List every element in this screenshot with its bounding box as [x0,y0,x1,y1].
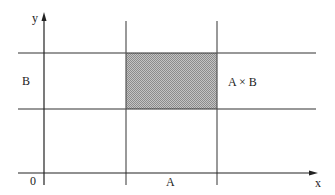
y-axis-label: y [32,11,38,25]
x-axis-label: x [315,176,321,190]
set-b-label: B [22,74,30,88]
set-a-label: A [166,175,175,189]
cartesian-product-diagram: y x 0 B A A × B [0,0,335,195]
product-region [126,53,217,109]
y-axis-arrow-icon [42,12,47,21]
x-axis-arrow-icon [309,171,318,176]
origin-label: 0 [30,174,36,188]
product-label: A × B [228,75,257,89]
